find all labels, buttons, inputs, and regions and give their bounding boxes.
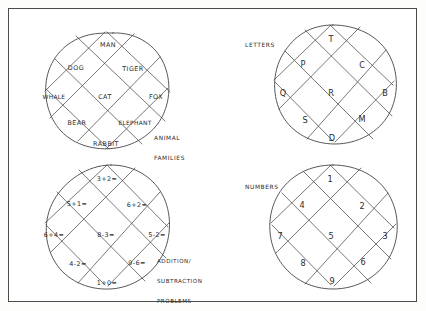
circle-outline-addition-subtraction	[46, 165, 169, 289]
cell-label: 7	[277, 231, 282, 241]
cell-label: 1+0=	[97, 279, 118, 287]
diagram-addition-subtraction: 3+2= 5+1= 6+2= 6+4= 8-3= 5-2= 4-2= 9-6= …	[29, 157, 183, 305]
cell-label: R	[328, 88, 334, 98]
cell-label: 3+2=	[97, 175, 118, 183]
diagram-animal-families: MAN DOG TIGER WHALE CAT FOX BEAR ELEPHAN…	[29, 17, 181, 165]
caption-letters: LETTERS	[245, 29, 275, 62]
cell-label: P	[301, 59, 306, 69]
cell-label: 5+1=	[67, 200, 88, 208]
cell-label: 2	[359, 201, 364, 211]
cell-label: Q	[280, 88, 286, 98]
cell-label: 1	[327, 174, 332, 184]
cell-label: M	[358, 114, 365, 124]
cell-label: D	[329, 133, 335, 143]
cell-label: 4-2=	[69, 260, 87, 268]
cell-label: 9	[329, 276, 334, 286]
cell-label: 5-2=	[148, 231, 166, 239]
caption-line: NUMBERS	[245, 184, 279, 191]
cell-label: BEAR	[67, 119, 86, 127]
cell-label: T	[327, 34, 334, 44]
diagram-letters: T P C Q R B S M D LETTERS	[261, 17, 409, 161]
cell-label: 3	[382, 231, 387, 241]
grid-lines-numbers	[271, 165, 396, 286]
cell-label: FOX	[149, 93, 163, 101]
page-border-frame: MAN DOG TIGER WHALE CAT FOX BEAR ELEPHAN…	[8, 8, 417, 302]
cell-label: S	[302, 115, 307, 125]
caption-line: ADDITION/	[157, 258, 202, 265]
cell-label: ELEPHANT	[118, 120, 151, 126]
cell-label: 6+4=	[44, 231, 65, 239]
cell-label: 8-3=	[97, 231, 115, 239]
cell-label: 4	[299, 200, 304, 210]
cell-label: TIGER	[121, 65, 144, 73]
cell-label: 6+2=	[127, 201, 148, 209]
cell-label: CAT	[98, 93, 112, 101]
cell-label: 6	[360, 257, 365, 267]
cell-label: B	[382, 88, 388, 98]
caption-line: PROBLEMS	[157, 298, 202, 305]
cell-label: 8	[300, 258, 305, 268]
caption-addition-subtraction: ADDITION/ SUBTRACTION PROBLEMS	[157, 245, 202, 311]
circle-outline-letters	[275, 25, 397, 144]
caption-line: SUBTRACTION	[157, 278, 202, 285]
circle-outline-animal-families	[46, 33, 169, 149]
diagram-numbers: 1 4 2 7 5 3 8 6 9 NUMBERS	[261, 157, 409, 305]
caption-numbers: NUMBERS	[245, 171, 279, 204]
circle-outline-numbers	[270, 165, 398, 289]
cell-label: C	[359, 60, 365, 70]
cell-label: 5	[328, 231, 333, 241]
cell-label: DOG	[68, 64, 84, 72]
cell-label: WHALE	[43, 94, 66, 100]
worksheet-page: MAN DOG TIGER WHALE CAT FOX BEAR ELEPHAN…	[0, 0, 426, 311]
cell-label: 9-6=	[128, 259, 146, 267]
grid-lines-addition-subtraction	[45, 165, 169, 286]
caption-line: ANIMAL	[154, 135, 185, 142]
caption-line: LETTERS	[245, 42, 275, 49]
cell-label: RABBIT	[93, 140, 119, 148]
cell-label: MAN	[100, 41, 116, 49]
